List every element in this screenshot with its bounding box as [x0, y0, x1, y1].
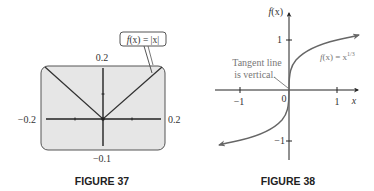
- figures-canvas: 0.2 −0.2 0.2 −0.1 f(x) = |x| FIGURE 37 f…: [0, 0, 374, 191]
- x-tick-label-neg1: −1: [234, 96, 245, 107]
- origin-label: 0: [282, 93, 287, 104]
- annotation-pointer: [274, 77, 288, 88]
- annotation-line2: is vertical.: [234, 69, 276, 80]
- figure-37-caption: FIGURE 37: [75, 175, 129, 187]
- window-bottom-label: −0.1: [93, 153, 111, 164]
- y-tick-label-pos1: 1: [277, 34, 282, 45]
- x-axis-label: x: [351, 95, 357, 106]
- x-tick-label-pos1: 1: [335, 96, 340, 107]
- function-label: f(x) = x1/3: [320, 51, 355, 62]
- figure-38: f(x) x 1 −1 −1 1 0 Tangent line is verti…: [215, 6, 359, 187]
- figure-37: 0.2 −0.2 0.2 −0.1 f(x) = |x| FIGURE 37: [18, 32, 181, 187]
- window-top-label: 0.2: [96, 52, 109, 63]
- function-callout-label: f(x) = |x|: [127, 35, 159, 46]
- vertex-dot: [101, 117, 105, 121]
- window-right-label: 0.2: [168, 114, 181, 125]
- y-tick-label-neg1: −1: [274, 135, 285, 146]
- annotation-line1: Tangent line: [232, 57, 282, 68]
- y-axis-label: f(x): [269, 6, 283, 18]
- figure-38-caption: FIGURE 38: [261, 175, 315, 187]
- cube-root-curve: [289, 35, 359, 90]
- window-left-label: −0.2: [18, 114, 36, 125]
